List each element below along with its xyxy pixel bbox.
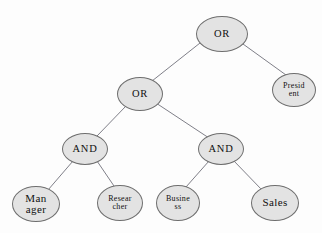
expression-tree-diagram: OR Presid ent OR AND AND Man ager Resear… — [0, 0, 322, 233]
node-sales[interactable]: Sales — [251, 185, 299, 221]
node-or-root[interactable]: OR — [196, 16, 248, 52]
edge-and-right-business — [186, 161, 209, 187]
edge-or-mid-and-left — [97, 106, 126, 136]
node-business-label: Busine ss — [166, 195, 190, 211]
node-or-root-label: OR — [214, 29, 230, 40]
node-and-right-label: AND — [208, 144, 233, 155]
edge-and-left-manager — [48, 161, 73, 190]
edge-or-root-or-mid — [152, 43, 200, 81]
node-president[interactable]: Presid ent — [272, 73, 316, 107]
node-manager[interactable]: Man ager — [12, 186, 60, 222]
node-researcher[interactable]: Resear cher — [97, 185, 143, 221]
edge-or-root-president — [243, 44, 286, 75]
node-president-label: Presid ent — [283, 82, 305, 98]
edge-and-left-researcher — [97, 161, 114, 186]
node-or-mid-label: OR — [132, 89, 148, 100]
edge-and-right-sales — [233, 160, 262, 190]
node-business[interactable]: Busine ss — [156, 185, 200, 221]
node-and-left-label: AND — [72, 144, 97, 155]
node-and-right[interactable]: AND — [198, 133, 244, 165]
node-sales-label: Sales — [262, 197, 287, 208]
node-manager-label: Man ager — [25, 193, 46, 215]
node-or-mid[interactable]: OR — [117, 77, 163, 111]
node-researcher-label: Resear cher — [108, 195, 132, 211]
node-and-left[interactable]: AND — [62, 133, 108, 165]
edge-or-mid-and-right — [156, 103, 209, 138]
